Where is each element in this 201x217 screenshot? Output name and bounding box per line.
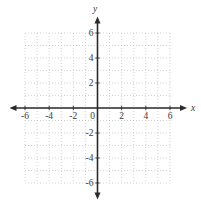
x-tick-label: -2	[69, 111, 77, 121]
y-tick-label: 4	[89, 53, 94, 63]
x-axis-right-arrow	[180, 105, 187, 111]
y-tick-label: -6	[86, 178, 94, 188]
y-tick-label: -4	[86, 153, 94, 163]
y-axis-bottom-arrow	[95, 193, 101, 200]
y-axis-top-arrow	[95, 17, 101, 24]
y-tick-label: 2	[89, 78, 94, 88]
y-tick-label: 6	[89, 28, 94, 38]
x-axis-letter: x	[190, 103, 196, 113]
y-axis-letter: y	[92, 4, 98, 14]
coordinate-grid-svg: -6-4-20246642-2-4-6xy	[0, 0, 201, 217]
x-tick-label: -6	[21, 111, 29, 121]
x-axis-left-arrow	[10, 105, 17, 111]
y-tick-label: -2	[86, 128, 94, 138]
x-tick-label: 6	[168, 111, 173, 121]
coordinate-plane-figure: -6-4-20246642-2-4-6xy	[0, 0, 201, 217]
x-tick-label: 2	[119, 111, 124, 121]
origin-label: 0	[90, 111, 95, 121]
x-tick-label: -4	[45, 111, 53, 121]
x-tick-label: 4	[143, 111, 148, 121]
